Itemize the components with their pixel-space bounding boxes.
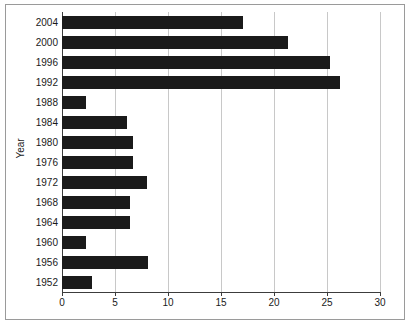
x-tick-mark (274, 293, 275, 296)
x-tick-mark (115, 293, 116, 296)
y-tick-label: 1956 (12, 257, 58, 268)
chart-figure: Year 20042000199619921988198419801976197… (0, 0, 412, 327)
y-tick-label: 2004 (12, 17, 58, 28)
x-tick-label: 25 (307, 297, 347, 308)
x-gridline (168, 12, 169, 292)
x-tick-label: 15 (201, 297, 241, 308)
x-tick-label: 10 (148, 297, 188, 308)
bar (62, 16, 243, 29)
y-tick-label: 1972 (12, 177, 58, 188)
bar (62, 216, 130, 229)
y-tick-label: 2000 (12, 37, 58, 48)
bar (62, 276, 92, 289)
bar (62, 116, 127, 129)
y-tick-label: 1992 (12, 77, 58, 88)
y-tick-label: 1964 (12, 217, 58, 228)
x-tick-label: 0 (42, 297, 82, 308)
y-tick-label: 1984 (12, 117, 58, 128)
x-tick-label: 20 (254, 297, 294, 308)
y-tick-label: 1968 (12, 197, 58, 208)
x-tick-label: 5 (95, 297, 135, 308)
bar (62, 176, 147, 189)
bar (62, 196, 130, 209)
y-tick-label: 1960 (12, 237, 58, 248)
bar (62, 56, 330, 69)
x-gridline (221, 12, 222, 292)
y-tick-label: 1976 (12, 157, 58, 168)
y-axis-tick-labels: 2004200019961992198819841980197619721968… (10, 12, 58, 292)
bar (62, 136, 133, 149)
x-gridline (327, 12, 328, 292)
x-tick-label: 30 (360, 297, 400, 308)
x-gridline (115, 12, 116, 292)
x-tick-mark (380, 293, 381, 296)
x-tick-mark (327, 293, 328, 296)
x-gridline (380, 12, 381, 292)
bar (62, 156, 133, 169)
x-tick-mark (168, 293, 169, 296)
plot-area (62, 12, 380, 292)
y-tick-label: 1980 (12, 137, 58, 148)
x-gridline (274, 12, 275, 292)
bar (62, 96, 86, 109)
y-tick-label: 1988 (12, 97, 58, 108)
x-tick-mark (62, 293, 63, 296)
bar (62, 76, 340, 89)
y-tick-label: 1952 (12, 277, 58, 288)
bar (62, 36, 288, 49)
bar (62, 236, 86, 249)
bar (62, 256, 148, 269)
x-tick-mark (221, 293, 222, 296)
y-tick-label: 1996 (12, 57, 58, 68)
